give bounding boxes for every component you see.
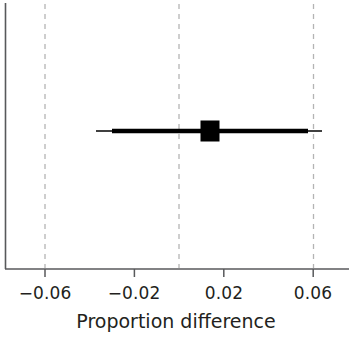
point-estimate-marker <box>201 121 220 142</box>
gridlines <box>45 4 314 268</box>
x-tick-label-pos006: 0.06 <box>294 283 332 303</box>
x-axis-ticks <box>45 269 313 277</box>
x-tick-label-neg002: −0.02 <box>108 283 161 303</box>
x-tick-label-neg006: −0.06 <box>19 283 72 303</box>
forest-plot-figure: −0.06 −0.02 0.02 0.06 Proportion differe… <box>0 0 352 344</box>
x-tick-label-pos002: 0.02 <box>205 283 243 303</box>
x-axis-title: Proportion difference <box>0 310 352 332</box>
axis-spines <box>5 3 349 269</box>
